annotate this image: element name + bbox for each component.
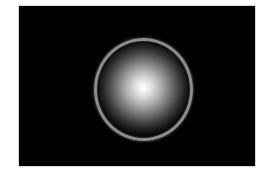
sphere-ring <box>94 38 193 141</box>
image-canvas: Glowing white sphere with a thin gray ri… <box>0 0 266 181</box>
black-frame <box>19 6 255 166</box>
